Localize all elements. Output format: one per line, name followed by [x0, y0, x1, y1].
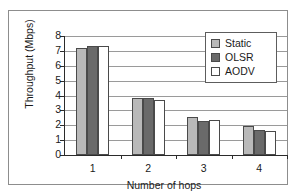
bar-aodv-hop-2	[154, 100, 165, 155]
bar-static-hop-2	[132, 98, 143, 155]
x-tick-label: 3	[184, 162, 224, 174]
y-axis-title: Throughput (Mbps)	[23, 4, 35, 124]
x-tick-label: 2	[128, 162, 168, 174]
legend-label-olsr: OLSR	[225, 51, 254, 63]
y-axis-line	[64, 36, 65, 156]
bar-olsr-hop-4	[254, 130, 265, 155]
bar-static-hop-1	[76, 48, 87, 155]
y-tick-label: 3	[55, 103, 61, 116]
legend-label-static: Static	[225, 37, 251, 49]
bar-aodv-hop-1	[98, 46, 109, 155]
bar-aodv-hop-4	[265, 131, 276, 155]
bar-olsr-hop-3	[198, 121, 209, 155]
y-tick-label: 5	[55, 74, 61, 87]
x-axis-title: Number of hops	[39, 179, 289, 191]
chart-figure: Throughput (Mbps) Number of hops 0123456…	[0, 0, 299, 196]
y-tick-label: 8	[55, 29, 61, 42]
y-tick-label: 4	[55, 89, 61, 102]
legend-item-static: Static	[211, 36, 271, 50]
bar-static-hop-4	[243, 126, 254, 155]
y-tick-label: 0	[55, 148, 61, 161]
y-tick-label: 1	[55, 133, 61, 146]
x-tick-mark	[287, 155, 288, 159]
legend-swatch-static	[211, 39, 220, 48]
legend-swatch-olsr	[211, 53, 220, 62]
bar-static-hop-3	[187, 117, 198, 155]
figure-border: Throughput (Mbps) Number of hops 0123456…	[8, 10, 288, 185]
legend-label-aodv: AODV	[225, 65, 255, 77]
legend-swatch-aodv	[211, 67, 220, 76]
y-tick-label: 7	[55, 44, 61, 57]
y-tick-label: 6	[55, 59, 61, 72]
legend-item-olsr: OLSR	[211, 50, 271, 64]
bar-olsr-hop-1	[87, 46, 98, 155]
y-tick-label: 2	[55, 118, 61, 131]
bar-olsr-hop-2	[143, 98, 154, 155]
bar-aodv-hop-3	[209, 120, 220, 155]
x-tick-label: 4	[239, 162, 279, 174]
legend-item-aodv: AODV	[211, 64, 271, 78]
x-tick-label: 1	[73, 162, 113, 174]
x-axis-line	[64, 155, 287, 156]
chart-legend: StaticOLSRAODV	[205, 32, 277, 83]
